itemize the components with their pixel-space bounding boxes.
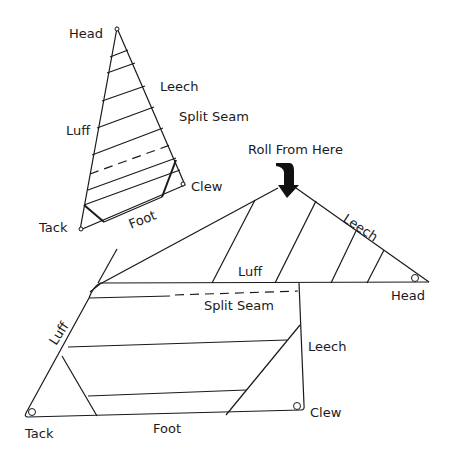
label-leech-right: Leech [308,339,346,354]
label-luff-upper: Luff [238,264,263,279]
sail-folding-diagram: Head Leech Split Seam Luff Clew Tack Foo… [0,0,453,465]
head-ring-icon [115,27,119,31]
clew-ring-icon [294,403,301,410]
label-clew: Clew [310,405,342,420]
label-tack: Tack [38,220,68,235]
label-foot: Foot [153,421,181,436]
flat-sail: Head Leech Split Seam Luff Clew Tack Foo… [38,26,249,235]
label-head: Head [391,288,425,303]
tack-ring-icon [29,409,36,416]
flat-sail-outline [80,28,185,230]
label-luff-left: Luff [46,318,72,347]
label-luff: Luff [66,123,91,138]
clew-ring-icon [181,182,185,186]
down-arrow-icon [276,163,299,198]
label-leech: Leech [160,79,198,94]
label-clew: Clew [191,179,223,194]
roll-from-here-label: Roll From Here [248,142,343,157]
folded-sail: Roll From Here Leech Luff Head Split Sea… [24,142,429,441]
label-head: Head [69,26,103,41]
tack-ring-icon [79,227,83,231]
head-ring-icon [412,275,419,282]
label-leech-upper: Leech [340,211,380,244]
label-tack: Tack [24,426,54,441]
label-split-seam: Split Seam [179,109,249,124]
label-foot: Foot [127,207,159,231]
label-split-seam: Split Seam [204,298,274,313]
